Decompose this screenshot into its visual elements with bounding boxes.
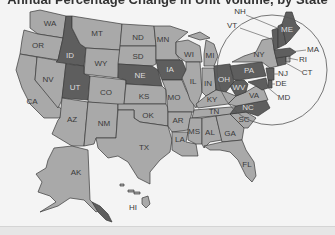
- svg-text:AK: AK: [71, 168, 82, 177]
- svg-text:WV: WV: [233, 83, 247, 92]
- svg-text:AR: AR: [172, 116, 183, 125]
- svg-text:VA: VA: [249, 91, 260, 100]
- svg-text:MS: MS: [188, 127, 200, 136]
- svg-text:CT: CT: [302, 68, 313, 77]
- svg-text:ID: ID: [66, 51, 74, 60]
- svg-text:NJ: NJ: [278, 69, 288, 78]
- svg-text:HI: HI: [129, 203, 137, 212]
- svg-text:SD: SD: [132, 52, 143, 61]
- svg-text:MI: MI: [206, 51, 215, 60]
- svg-text:NC: NC: [242, 103, 254, 112]
- svg-text:ND: ND: [132, 33, 144, 42]
- svg-text:WY: WY: [95, 59, 109, 68]
- svg-text:MT: MT: [91, 29, 103, 38]
- svg-text:OR: OR: [32, 41, 44, 50]
- svg-text:NV: NV: [42, 75, 54, 84]
- svg-text:IN: IN: [204, 79, 212, 88]
- svg-text:OH: OH: [218, 75, 230, 84]
- svg-text:KS: KS: [139, 92, 150, 101]
- svg-text:TN: TN: [209, 107, 220, 116]
- svg-text:NM: NM: [98, 119, 111, 128]
- svg-text:NH: NH: [234, 7, 246, 16]
- svg-text:IA: IA: [166, 65, 174, 74]
- svg-text:DE: DE: [275, 79, 286, 88]
- us-map: WA OR CA NV ID MT WY UT CO AZ NM ND SD N…: [0, 0, 335, 235]
- state-ma[interactable]: [274, 48, 296, 58]
- svg-text:RI: RI: [299, 55, 307, 64]
- svg-text:FL: FL: [242, 160, 252, 169]
- svg-text:AZ: AZ: [67, 115, 77, 124]
- state-hi[interactable]: [142, 196, 150, 208]
- svg-text:TX: TX: [139, 143, 150, 152]
- svg-text:MA: MA: [307, 45, 320, 54]
- svg-text:ME: ME: [281, 25, 293, 34]
- state-ri[interactable]: [286, 56, 290, 62]
- svg-text:GA: GA: [224, 129, 236, 138]
- svg-text:SC: SC: [238, 115, 249, 124]
- svg-text:MN: MN: [157, 35, 170, 44]
- bottom-divider: [0, 226, 335, 235]
- svg-text:LA: LA: [175, 135, 185, 144]
- state-ak-panhandle: [92, 202, 112, 222]
- svg-text:IL: IL: [190, 77, 197, 86]
- svg-text:NE: NE: [134, 71, 145, 80]
- hawaii-islands: [120, 184, 140, 194]
- svg-text:NY: NY: [253, 50, 265, 59]
- svg-text:MD: MD: [278, 93, 291, 102]
- svg-text:OK: OK: [142, 111, 154, 120]
- svg-text:KY: KY: [207, 95, 218, 104]
- svg-text:CA: CA: [26, 97, 38, 106]
- svg-text:AL: AL: [205, 128, 215, 137]
- state-ak[interactable]: [36, 146, 100, 212]
- svg-text:WA: WA: [44, 19, 57, 28]
- svg-text:UT: UT: [70, 83, 81, 92]
- svg-text:VT: VT: [227, 21, 237, 30]
- svg-text:PA: PA: [244, 66, 255, 75]
- svg-text:MO: MO: [168, 93, 181, 102]
- svg-text:CO: CO: [100, 88, 112, 97]
- svg-text:WI: WI: [184, 50, 194, 59]
